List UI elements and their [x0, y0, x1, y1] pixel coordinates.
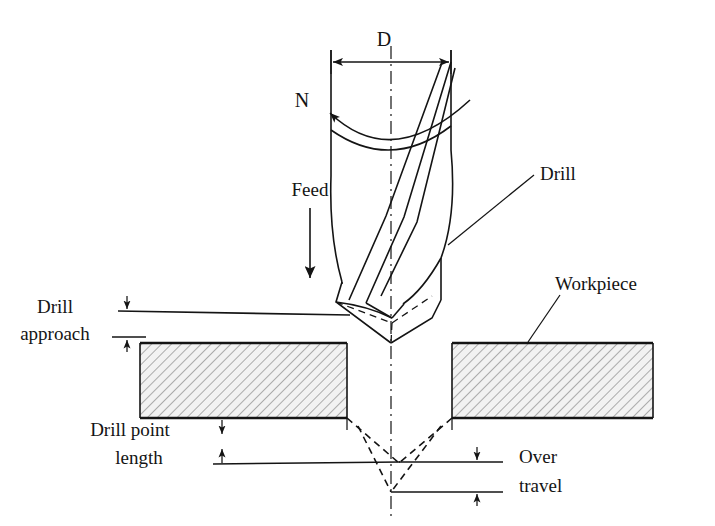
feed-group: Feed: [292, 179, 329, 278]
spindle-speed-label: N: [295, 89, 309, 111]
feed-label: Feed: [292, 179, 329, 200]
drill-leader-line: [448, 175, 534, 245]
drill-approach-reference-line: [118, 311, 350, 315]
workpiece-right-section: [452, 343, 653, 418]
drill-point-lip-upper: [366, 303, 392, 318]
hole-cone-inner-right: [391, 426, 441, 492]
workpiece-group: [140, 343, 653, 418]
drill-flute-front-edge: [366, 62, 451, 303]
drill-point-length-group: Drill point length: [90, 419, 400, 468]
workpiece-left-section: [140, 343, 347, 418]
hole-cone-inner-left: [358, 426, 391, 492]
workpiece-label: Workpiece: [555, 273, 637, 294]
drill-label: Drill: [540, 163, 576, 184]
over-travel-group: Over travel: [391, 446, 562, 506]
workpiece-callout-group: Workpiece: [528, 273, 637, 342]
drill-flute-groove-curve: [403, 258, 441, 304]
drilling-diagram-figure: D N Feed Drill Workpiece Drill approach …: [0, 0, 715, 526]
drill-point-length-reference-line: [213, 462, 400, 464]
drill-point-length-label-line1: Drill point: [90, 419, 170, 440]
drill-flute-land-edge: [381, 68, 455, 296]
hole-cone-outer-right: [399, 418, 452, 463]
drill-approach-label-line2: approach: [20, 323, 90, 344]
over-travel-label-line2: travel: [519, 475, 562, 496]
drill-group: [331, 50, 455, 343]
drill-body-right-taper: [441, 150, 453, 258]
workpiece-leader-line: [528, 295, 560, 342]
over-travel-label-line1: Over: [519, 446, 558, 467]
drill-point-hidden-edge-right: [392, 296, 432, 323]
drill-callout-group: Drill: [448, 163, 576, 245]
drill-approach-label-line1: Drill: [37, 296, 73, 317]
drill-body-left-taper: [331, 176, 342, 282]
drill-point-length-label-line2: length: [115, 447, 163, 468]
hole-bottom-cone-group: [347, 418, 452, 492]
diameter-label: D: [377, 28, 391, 50]
rotation-arc: [330, 100, 470, 140]
